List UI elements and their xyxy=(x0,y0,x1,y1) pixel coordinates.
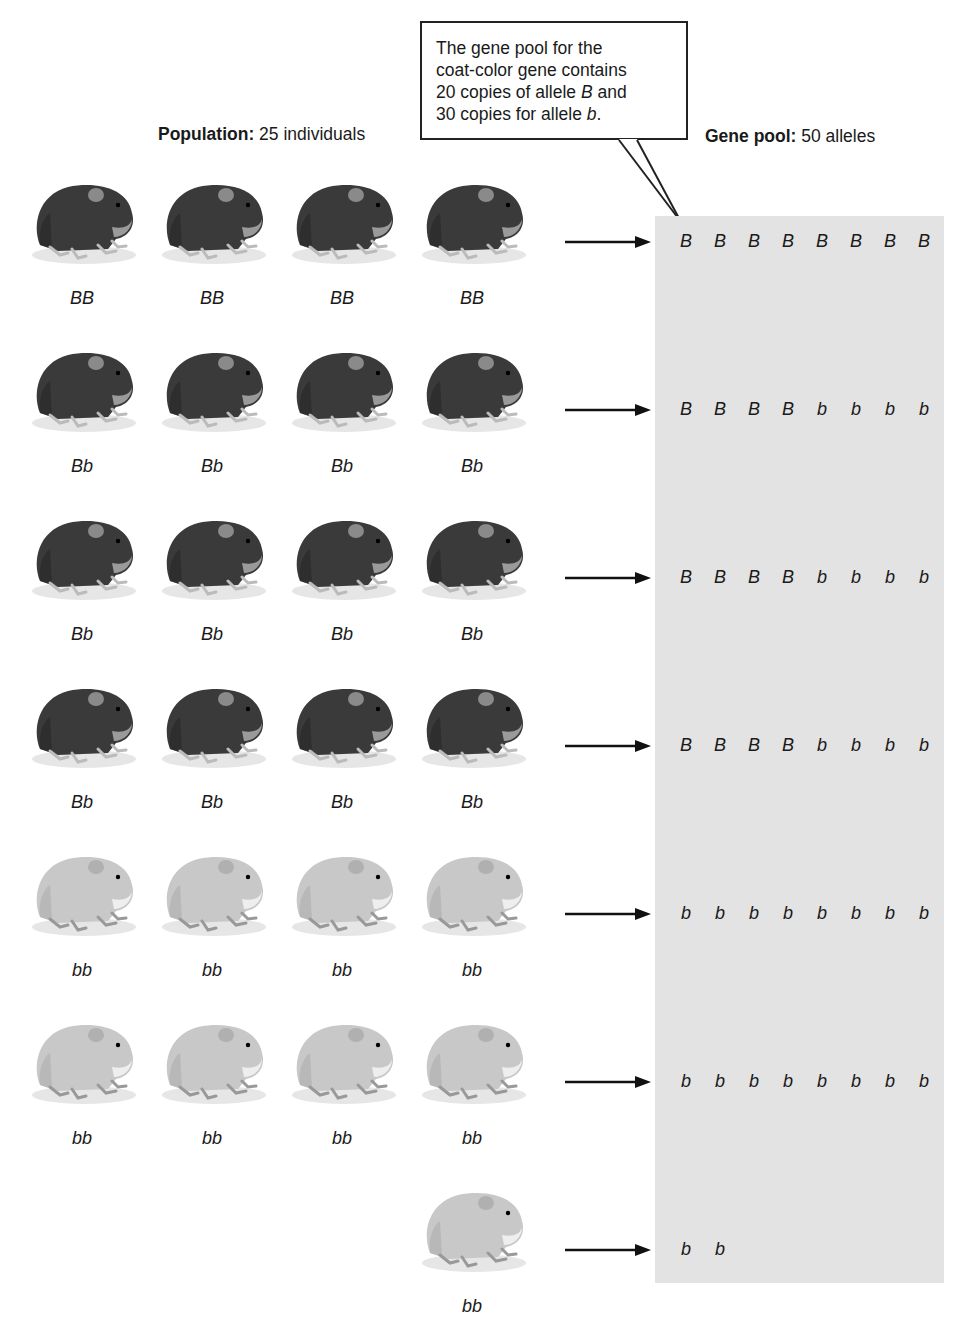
allele: b xyxy=(812,567,832,588)
allele: B xyxy=(676,735,696,756)
genotype-label: BB xyxy=(416,288,528,309)
white-guinea-pig-icon xyxy=(288,847,400,939)
allele: B xyxy=(846,231,866,252)
arrow-icon xyxy=(565,1075,651,1089)
genotype-label: bb xyxy=(26,960,138,981)
callout-line-4-tail: . xyxy=(597,104,602,124)
allele: b xyxy=(914,399,934,420)
allele: b xyxy=(880,735,900,756)
allele: B xyxy=(676,567,696,588)
gene-pool-count: 50 alleles xyxy=(801,126,875,146)
allele: b xyxy=(914,735,934,756)
genotype-label: Bb xyxy=(26,792,138,813)
allele: B xyxy=(778,231,798,252)
arrow-icon xyxy=(565,739,651,753)
allele: B xyxy=(676,231,696,252)
allele: B xyxy=(744,231,764,252)
allele: B xyxy=(710,399,730,420)
allele: B xyxy=(710,735,730,756)
black-guinea-pig-icon xyxy=(28,343,140,435)
allele: b xyxy=(880,903,900,924)
genotype-label: BB xyxy=(156,288,268,309)
genotype-label: Bb xyxy=(286,624,398,645)
black-guinea-pig-icon xyxy=(28,511,140,603)
allele: b xyxy=(812,735,832,756)
allele: b xyxy=(812,903,832,924)
allele: b xyxy=(846,903,866,924)
genotype-label: bb xyxy=(416,1296,528,1317)
gene-pool-box xyxy=(655,216,944,1283)
allele: b xyxy=(880,1071,900,1092)
callout-allele-B: B xyxy=(581,82,593,102)
genotype-label: bb xyxy=(26,1128,138,1149)
allele: b xyxy=(914,903,934,924)
allele: B xyxy=(710,567,730,588)
black-guinea-pig-icon xyxy=(418,175,530,267)
black-guinea-pig-icon xyxy=(158,343,270,435)
black-guinea-pig-icon xyxy=(288,679,400,771)
genotype-label: Bb xyxy=(156,456,268,477)
allele: B xyxy=(744,735,764,756)
allele: b xyxy=(710,903,730,924)
allele: B xyxy=(676,399,696,420)
white-guinea-pig-icon xyxy=(288,1015,400,1107)
callout-line-3-text: 20 copies of allele xyxy=(436,82,581,102)
genotype-label: bb xyxy=(416,960,528,981)
arrow-icon xyxy=(565,403,651,417)
allele: b xyxy=(710,1239,730,1260)
allele: b xyxy=(778,903,798,924)
black-guinea-pig-icon xyxy=(288,511,400,603)
allele: B xyxy=(778,735,798,756)
allele: b xyxy=(914,1071,934,1092)
allele: b xyxy=(880,567,900,588)
allele: b xyxy=(676,1239,696,1260)
callout-line-3-tail: and xyxy=(593,82,627,102)
allele: b xyxy=(880,399,900,420)
allele: b xyxy=(710,1071,730,1092)
genotype-label: Bb xyxy=(156,624,268,645)
black-guinea-pig-icon xyxy=(418,343,530,435)
callout-line-2: coat-color gene contains xyxy=(436,59,676,81)
allele: b xyxy=(812,1071,832,1092)
allele: B xyxy=(744,567,764,588)
genotype-label: bb xyxy=(156,1128,268,1149)
allele: b xyxy=(846,567,866,588)
white-guinea-pig-icon xyxy=(158,1015,270,1107)
arrow-icon xyxy=(565,907,651,921)
allele: b xyxy=(846,1071,866,1092)
allele: B xyxy=(880,231,900,252)
population-header: Population: 25 individuals xyxy=(158,124,365,145)
genotype-label: bb xyxy=(286,960,398,981)
genotype-label: Bb xyxy=(286,792,398,813)
white-guinea-pig-icon xyxy=(158,847,270,939)
genotype-label: bb xyxy=(416,1128,528,1149)
gene-pool-label: Gene pool: xyxy=(705,126,796,146)
allele: B xyxy=(812,231,832,252)
white-guinea-pig-icon xyxy=(28,1015,140,1107)
callout-line-1: The gene pool for the xyxy=(436,37,676,59)
arrow-icon xyxy=(565,235,651,249)
population-count: 25 individuals xyxy=(259,124,365,144)
population-label: Population: xyxy=(158,124,254,144)
white-guinea-pig-icon xyxy=(28,847,140,939)
genotype-label: Bb xyxy=(416,624,528,645)
black-guinea-pig-icon xyxy=(28,175,140,267)
genotype-label: bb xyxy=(286,1128,398,1149)
allele: B xyxy=(710,231,730,252)
allele: b xyxy=(778,1071,798,1092)
callout-line-3: 20 copies of allele B and xyxy=(436,81,676,103)
allele: B xyxy=(778,399,798,420)
genotype-label: Bb xyxy=(286,456,398,477)
black-guinea-pig-icon xyxy=(418,679,530,771)
black-guinea-pig-icon xyxy=(158,679,270,771)
callout-line-4: 30 copies for allele b. xyxy=(436,103,676,125)
allele: B xyxy=(778,567,798,588)
allele: b xyxy=(744,903,764,924)
genotype-label: Bb xyxy=(26,624,138,645)
allele: b xyxy=(676,1071,696,1092)
genotype-label: Bb xyxy=(26,456,138,477)
allele: B xyxy=(744,399,764,420)
black-guinea-pig-icon xyxy=(158,175,270,267)
allele: b xyxy=(744,1071,764,1092)
genotype-label: BB xyxy=(26,288,138,309)
